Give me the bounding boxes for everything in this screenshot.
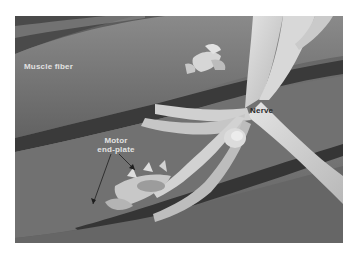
- nerve-label: Nerve: [250, 106, 273, 115]
- muscle-fiber-label: Muscle fiber: [24, 62, 73, 71]
- motor-end-plate-label-line2: end-plate: [88, 145, 144, 154]
- micrograph-scene: [15, 16, 343, 243]
- motor-end-plate-label-line1: Motor: [88, 136, 144, 145]
- micrograph-photo: [15, 16, 343, 243]
- motor-end-plate-label: Motor end-plate: [88, 136, 144, 154]
